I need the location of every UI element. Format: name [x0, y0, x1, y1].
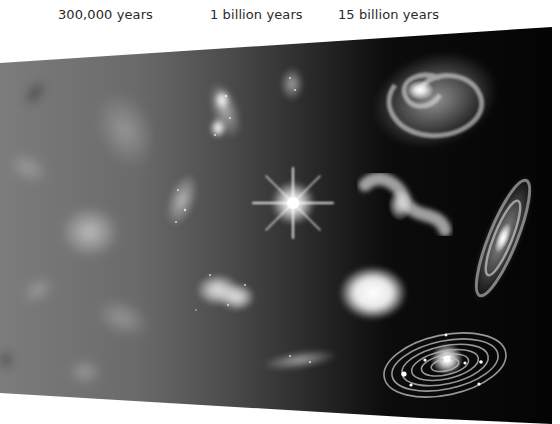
- universe-evolution-illustration: [0, 0, 560, 424]
- elliptical-galaxy: [339, 266, 407, 320]
